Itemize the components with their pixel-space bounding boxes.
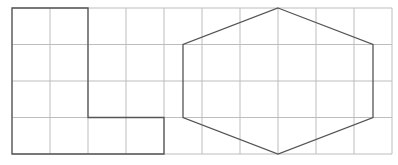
grid-diagram bbox=[0, 0, 398, 165]
diagram-canvas bbox=[0, 0, 398, 165]
